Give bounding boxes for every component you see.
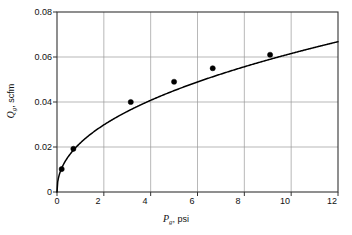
xtick-label-6: 12 xyxy=(320,197,344,206)
data-point-2 xyxy=(128,99,133,104)
data-point-1 xyxy=(71,146,76,151)
series-points-measured-data xyxy=(59,52,273,171)
data-point-5 xyxy=(267,52,272,57)
y-axis-units: , scfm xyxy=(6,84,16,108)
xtick-label-1: 2 xyxy=(86,197,110,206)
chart-figure: 0 0.02 0.04 0.06 0.08 0 2 4 6 8 10 12 Pg… xyxy=(0,0,352,235)
xtick-label-4: 8 xyxy=(226,197,250,206)
xtick-label-5: 10 xyxy=(273,197,297,206)
x-axis-units: , psi xyxy=(173,214,190,224)
data-point-3 xyxy=(171,79,176,84)
y-axis-title: Qg, scfm xyxy=(6,51,18,151)
data-point-4 xyxy=(210,66,215,71)
xtick-label-2: 4 xyxy=(133,197,157,206)
data-point-0 xyxy=(59,166,64,171)
gridlines xyxy=(57,12,338,192)
xtick-label-0: 0 xyxy=(45,197,69,206)
ytick-label-0: 0 xyxy=(8,188,52,197)
tick-marks xyxy=(53,12,338,196)
xtick-label-3: 6 xyxy=(180,197,204,206)
y-axis-symbol: Q xyxy=(5,111,16,118)
ytick-label-4: 0.08 xyxy=(8,8,52,17)
x-axis-title: Pg, psi xyxy=(0,214,352,226)
y-axis-subscript: g xyxy=(10,108,18,112)
